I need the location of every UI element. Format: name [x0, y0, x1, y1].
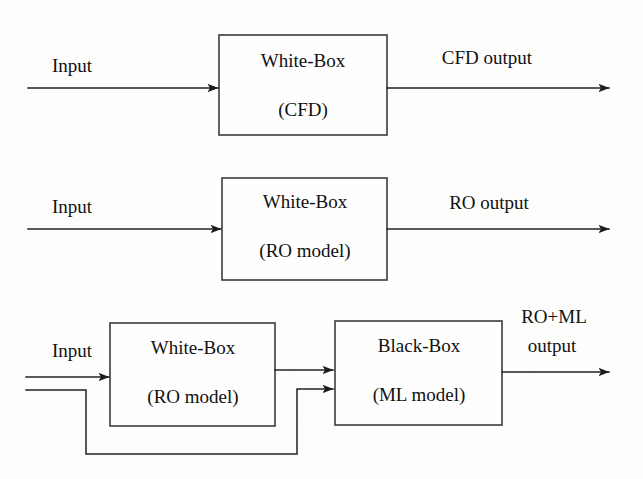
- ro-input-label: Input: [52, 196, 93, 217]
- roml-output-label-line1: RO+ML: [521, 306, 587, 327]
- row-ro-ml: Input White-Box (RO model) Black-Box (ML…: [26, 306, 609, 454]
- row-ro: Input White-Box (RO model) RO output: [28, 178, 609, 280]
- roml-output-label-line2: output: [528, 335, 577, 356]
- block-diagram: Input White-Box (CFD) CFD output Input W…: [0, 0, 643, 479]
- ro-output-label: RO output: [449, 192, 529, 213]
- cfd-output-label: CFD output: [442, 47, 533, 68]
- ro-box-title: White-Box: [263, 191, 348, 212]
- roml-black-box-title: Black-Box: [378, 335, 461, 356]
- roml-black-box-subtitle: (ML model): [373, 384, 466, 406]
- cfd-box-subtitle: (CFD): [278, 99, 328, 121]
- cfd-box-title: White-Box: [261, 50, 346, 71]
- roml-white-box-title: White-Box: [151, 337, 236, 358]
- cfd-input-label: Input: [52, 55, 93, 76]
- ro-box-subtitle: (RO model): [259, 240, 350, 262]
- roml-input-label: Input: [52, 340, 93, 361]
- roml-white-box-subtitle: (RO model): [147, 386, 238, 408]
- row-cfd: Input White-Box (CFD) CFD output: [28, 35, 609, 135]
- diagram-canvas: Input White-Box (CFD) CFD output Input W…: [0, 0, 643, 479]
